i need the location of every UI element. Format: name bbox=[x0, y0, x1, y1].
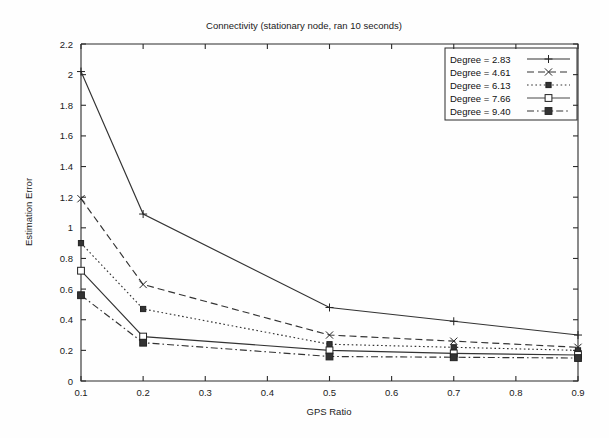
y-tick-label: 1.8 bbox=[60, 100, 73, 111]
x-tick-label: 0.1 bbox=[74, 387, 87, 398]
filled-square-marker bbox=[575, 355, 582, 362]
filled-square-small-marker bbox=[451, 345, 456, 350]
filled-square-small-marker bbox=[141, 306, 146, 311]
y-tick-label: 2.2 bbox=[60, 39, 73, 50]
chart-page: Connectivity (stationary node, ran 10 se… bbox=[0, 0, 609, 438]
filled-square-marker bbox=[140, 339, 147, 346]
x-tick-label: 0.8 bbox=[509, 387, 522, 398]
plus-marker bbox=[545, 55, 553, 63]
legend-label-1[interactable]: Degree = 4.61 bbox=[450, 67, 510, 78]
x-tick-label: 0.5 bbox=[323, 387, 336, 398]
x-tick-label: 0.7 bbox=[447, 387, 460, 398]
x-tick-label: 0.2 bbox=[137, 387, 150, 398]
filled-square-marker bbox=[450, 354, 457, 361]
x-tick-label: 0.9 bbox=[571, 387, 584, 398]
plus-marker bbox=[326, 303, 334, 311]
x-tick-label: 0.6 bbox=[385, 387, 398, 398]
chart-title: Connectivity (stationary node, ran 10 se… bbox=[206, 20, 402, 31]
series-line bbox=[81, 199, 578, 348]
filled-square-marker bbox=[326, 353, 333, 360]
filled-square-small-marker bbox=[327, 342, 332, 347]
y-tick-label: 0.4 bbox=[60, 314, 73, 325]
plus-marker bbox=[139, 210, 147, 218]
legend-label-2[interactable]: Degree = 6.13 bbox=[450, 80, 510, 91]
chart-legend: Degree = 2.83Degree = 4.61Degree = 6.13D… bbox=[445, 48, 577, 120]
x-axis-title: GPS Ratio bbox=[307, 406, 352, 417]
open-square-marker bbox=[78, 267, 85, 274]
filled-square-marker bbox=[545, 108, 552, 115]
y-tick-label: 2 bbox=[68, 69, 73, 80]
filled-square-small-marker bbox=[546, 82, 551, 87]
legend-label-0[interactable]: Degree = 2.83 bbox=[450, 54, 510, 65]
connectivity-line-chart: Connectivity (stationary node, ran 10 se… bbox=[0, 0, 609, 438]
cross-marker bbox=[140, 281, 147, 288]
y-tick-label: 0.2 bbox=[60, 345, 73, 356]
y-tick-label: 0.6 bbox=[60, 284, 73, 295]
legend-label-4[interactable]: Degree = 9.40 bbox=[450, 106, 510, 117]
y-tick-label: 0 bbox=[68, 376, 73, 387]
y-tick-label: 0.8 bbox=[60, 253, 73, 264]
x-tick-label: 0.3 bbox=[199, 387, 212, 398]
y-axis-ticks: 00.20.40.60.811.21.41.61.822.2 bbox=[60, 39, 578, 387]
plus-marker bbox=[450, 317, 458, 325]
y-tick-label: 1.6 bbox=[60, 130, 73, 141]
y-axis-title: Estimation Error bbox=[23, 178, 34, 246]
filled-square-marker bbox=[78, 292, 85, 299]
y-tick-label: 1.2 bbox=[60, 192, 73, 203]
legend-label-3[interactable]: Degree = 7.66 bbox=[450, 93, 510, 104]
y-tick-label: 1 bbox=[68, 222, 73, 233]
filled-square-small-marker bbox=[78, 241, 83, 246]
series-2 bbox=[78, 241, 580, 353]
plus-marker bbox=[574, 331, 582, 339]
series-line bbox=[81, 243, 578, 350]
open-square-marker bbox=[545, 95, 552, 102]
x-tick-label: 0.4 bbox=[261, 387, 274, 398]
y-tick-label: 1.4 bbox=[60, 161, 73, 172]
